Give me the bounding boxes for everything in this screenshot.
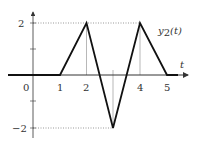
y-tick-neg2: −2	[12, 123, 27, 134]
origin-label: 0	[23, 82, 29, 93]
x-tick-1: 1	[57, 82, 63, 93]
y-tick-2: 2	[18, 18, 24, 29]
x-tick-5: 5	[164, 82, 170, 93]
x-axis-label: t	[180, 59, 185, 70]
x-tick-2: 2	[83, 82, 89, 93]
chart: 0 1 2 4 5 2 −2 t y2(t)	[0, 0, 197, 145]
x-tick-4: 4	[137, 82, 143, 93]
series-label: y2(t)	[157, 25, 182, 38]
